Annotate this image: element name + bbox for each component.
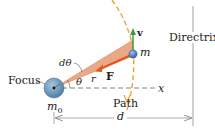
theta-label: θ	[76, 77, 82, 87]
orbital-mechanics-diagram: Focus Directrix Path m0 m v F r θ dθ x d	[0, 0, 215, 139]
mass-body-icon	[129, 50, 137, 58]
radius-label: r	[91, 74, 96, 84]
dtheta-label: dθ	[59, 58, 71, 68]
directrix-label: Directrix	[168, 32, 215, 43]
force-label: F	[106, 71, 114, 82]
distance-label: d	[117, 111, 124, 122]
velocity-label: v	[137, 28, 143, 38]
x-axis-label: x	[158, 83, 164, 94]
dtheta-leader-line	[74, 63, 82, 72]
focus-mass-label: m0	[47, 101, 63, 115]
focus-label: Focus	[8, 75, 41, 86]
mass-label: m	[140, 47, 150, 58]
focus-mass-subscript: 0	[57, 106, 62, 115]
focus-mass-symbol: m	[47, 100, 57, 113]
path-label: Path	[113, 98, 138, 109]
velocity-arrowhead-icon	[130, 28, 136, 35]
